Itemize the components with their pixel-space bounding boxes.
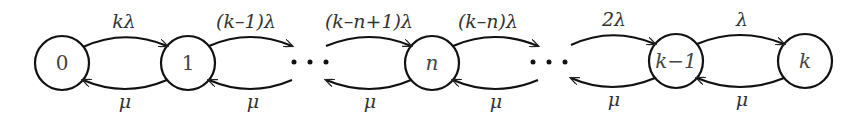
rate-label-backward-2: μ: [364, 90, 376, 112]
node-label-0: 0: [56, 51, 69, 75]
node-label-1: 1: [182, 51, 195, 75]
arc-forward-dots-k1: [571, 35, 655, 45]
rate-label-forward-4: 2λ: [601, 8, 626, 30]
rate-label-forward-5: λ: [735, 8, 748, 30]
arc-backward-k-k1: [697, 78, 784, 87]
arc-forward-1-dots: [209, 37, 292, 46]
rate-label-forward-1: (k–1)λ: [216, 10, 276, 32]
arc-backward-n-dots: [326, 80, 411, 89]
arc-backward-1-0: [83, 80, 167, 89]
arc-forward-n-dots: [453, 37, 538, 46]
arc-forward-dots-n: [326, 37, 411, 46]
rate-label-forward-0: kλ: [112, 10, 136, 32]
arc-backward-k1-dots: [571, 78, 655, 87]
rate-label-backward-0: μ: [119, 90, 131, 112]
rate-label-backward-5: μ: [736, 88, 748, 110]
arc-backward-dots-1: [209, 80, 292, 89]
arc-forward-0-1: [83, 37, 167, 47]
ellipsis-left: [292, 60, 329, 65]
ellipsis-right: [531, 60, 568, 65]
arc-forward-k1-k: [697, 35, 784, 44]
node-label-n: n: [426, 51, 439, 75]
state-diagram: 0 1 n k−1 k kλ (k–1)λ (k–n+1)λ (k–n)λ 2λ…: [0, 0, 863, 120]
node-label-k: k: [799, 49, 811, 73]
rate-label-forward-2: (k–n+1)λ: [325, 10, 413, 32]
rate-label-forward-3: (k–n)λ: [458, 10, 518, 32]
node-label-k-minus-1: k−1: [655, 49, 697, 73]
rate-label-backward-4: μ: [608, 88, 620, 110]
rate-label-backward-3: μ: [490, 90, 502, 112]
arc-backward-dots-n: [453, 80, 538, 89]
rate-label-backward-1: μ: [247, 90, 259, 112]
